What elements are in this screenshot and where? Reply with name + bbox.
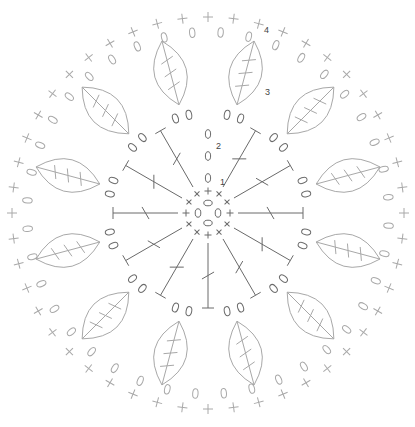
chain-oval-icon [66,327,77,337]
chain-oval-icon [379,250,390,257]
leaf-stitch-slash [93,95,99,108]
chain-oval-icon [341,324,352,334]
chain-oval-icon [127,273,138,283]
single-crochet-icon [192,227,202,237]
chain-oval-icon [137,283,147,294]
chain-oval-icon [137,132,147,143]
single-crochet-icon [356,325,370,339]
stitch-stroke [323,54,331,60]
single-crochet-icon [399,208,409,218]
stitch-stroke [387,133,391,142]
chain-oval-icon [105,228,115,235]
stitch-stroke [13,182,14,192]
round-label-1: 1 [220,177,225,187]
leaf-stitch-slash [168,82,179,90]
single-crochet-icon [214,227,224,237]
chain-oval-icon [87,346,97,357]
single-crochet-icon [45,325,59,339]
single-crochet-icon [31,108,45,122]
chain-oval-icon [268,132,278,143]
chain-oval-icon [105,190,115,197]
single-crochet-icon [340,345,354,359]
stitch-stroke [375,307,380,316]
leaf-stitch-slash [317,319,323,332]
leaf-stitch-slash [235,85,249,86]
stitch-stroke [106,41,115,46]
treble-bar [155,128,165,134]
stitch-stroke [278,392,287,396]
leaf-stitch-slash [335,240,336,254]
single-crochet-icon [391,258,403,270]
stitch-stroke [13,234,14,244]
single-crochet-icon [227,210,234,217]
chain-oval-icon [35,141,46,150]
stitch-stroke [49,90,55,98]
leaf-petals-group [36,41,380,385]
leaf-stitch-slash [331,173,339,184]
chain-oval-icon [278,273,289,283]
leaf-stitch-slash [165,69,176,77]
stitch-stroke [128,30,137,34]
single-crochet-icon [320,50,334,64]
chain-oval-icon [218,27,224,37]
single-crochet-icon [151,396,163,408]
chain-oval-icon [185,306,192,316]
single-crochet-icon [7,208,17,218]
round-label-4: 4 [264,25,269,35]
leaf-stitch-slash [239,72,253,73]
leaf-stitch-slash [347,244,348,258]
chain-oval-icon [384,223,394,229]
single-crochet-icon [177,402,188,413]
chain-oval-icon [358,301,369,311]
chain-oval-icon [369,138,380,147]
inner-rounds-group [105,110,311,316]
single-crochet-icon [31,304,45,318]
leaf-stitch-slash [99,313,112,319]
leaf-stitch-slash [295,117,308,123]
treble-bar [287,160,293,170]
stitch-stroke [402,234,403,244]
leaf-stitch-slash [67,168,68,182]
single-crochet-icon [20,281,33,294]
chain-oval-icon [236,302,244,313]
single-crochet-icon [13,156,25,168]
chain-oval-icon [107,54,117,65]
stitch-stroke [25,283,29,292]
crochet-chart-svg: 1 2 3 4 [0,0,415,427]
leaf-stitch-slash [64,245,72,256]
chain-oval-icon [322,344,332,355]
stitch-stroke [49,328,55,336]
chain-oval-icon [108,241,119,249]
round-label-3: 3 [265,87,270,97]
chain-oval-icon [383,194,393,200]
single-crochet-icon [214,189,224,199]
single-crochet-icon [82,361,96,375]
stitch-stroke [229,407,239,408]
leaf-stitch-slash [344,170,352,181]
single-crochet-icon [205,232,212,239]
chain-oval-icon [36,279,47,288]
chain-oval-icon [356,112,367,122]
single-crochet-icon [253,18,265,30]
stitch-stroke [36,111,41,120]
stitch-stroke [128,392,137,396]
leaf-stitch-slash [243,362,254,370]
stitch-stroke [302,41,311,46]
single-crochet-icon [228,13,239,24]
single-crochet-icon [177,13,188,24]
stitch-stroke [177,407,187,408]
stitch-stroke [229,18,239,19]
single-crochet-icon [126,388,139,401]
chain-oval-icon [221,388,227,398]
single-crochet-icon [371,108,385,122]
chain-oval-icon [110,363,120,374]
treble-bar [155,292,165,298]
round-label-2: 2 [216,141,221,151]
leaf-stitch-slash [314,98,327,104]
chain-oval-icon [301,228,311,235]
chain-oval-icon [108,176,119,184]
single-crochet-icon [276,25,289,38]
stitch-stroke [36,307,41,316]
chain-oval-icon [133,41,142,52]
chain-oval-icon [192,389,198,399]
